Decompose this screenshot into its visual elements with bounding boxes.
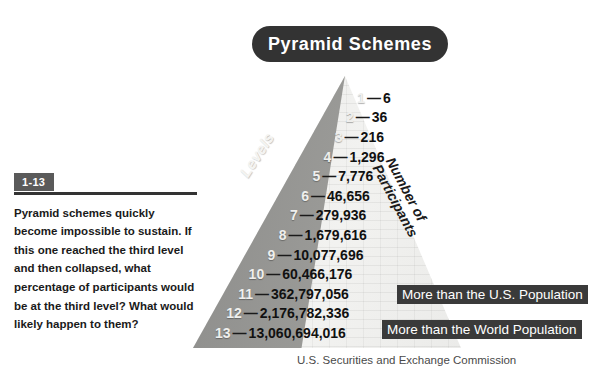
- title-pill: Pyramid Schemes: [252, 26, 448, 62]
- level-row: 5—7,776: [196, 166, 436, 186]
- level-row: 9—10,077,696: [196, 245, 436, 265]
- level-number: 11: [234, 286, 253, 302]
- callout-world-population: More than the World Population: [382, 320, 582, 339]
- level-number: 9: [256, 247, 275, 263]
- level-dash: —: [264, 266, 282, 282]
- level-number: 2: [335, 109, 354, 125]
- level-value: 36: [372, 109, 388, 125]
- infographic-canvas: Pyramid Schemes Levels Number of Partici…: [0, 0, 616, 389]
- level-dash: —: [365, 90, 383, 106]
- level-row: 8—1,679,616: [196, 225, 436, 245]
- level-number: 12: [223, 305, 242, 321]
- level-dash: —: [331, 149, 349, 165]
- level-value: 10,077,696: [293, 247, 363, 263]
- level-number: 4: [312, 149, 331, 165]
- level-value: 1,679,616: [305, 227, 367, 243]
- level-dash: —: [343, 129, 361, 145]
- level-value: 46,656: [327, 188, 370, 204]
- level-dash: —: [354, 109, 372, 125]
- level-row: 2—36: [196, 108, 436, 128]
- level-dash: —: [253, 286, 271, 302]
- level-number: 3: [324, 129, 343, 145]
- level-number: 13: [212, 325, 231, 341]
- level-dash: —: [231, 325, 249, 341]
- level-value: 216: [361, 129, 384, 145]
- level-dash: —: [242, 305, 260, 321]
- level-number: 8: [268, 227, 287, 243]
- callout-us-population: More than the U.S. Population: [397, 285, 588, 304]
- level-value: 60,466,176: [282, 266, 352, 282]
- level-row: 6—46,656: [196, 186, 436, 206]
- level-dash: —: [287, 227, 305, 243]
- level-number: 5: [301, 168, 320, 184]
- level-dash: —: [275, 247, 293, 263]
- level-value: 13,060,694,016: [249, 325, 346, 341]
- question-number-badge: 1-13: [14, 173, 54, 191]
- question-text: Pyramid schemes quickly become impossibl…: [14, 204, 197, 334]
- level-row: 4—1,296: [196, 147, 436, 167]
- level-number: 1: [346, 90, 365, 106]
- source-credit: U.S. Securities and Exchange Commission: [297, 354, 516, 366]
- level-value: 279,936: [316, 207, 367, 223]
- level-dash: —: [309, 188, 327, 204]
- level-number: 7: [279, 207, 298, 223]
- question-panel: 1-13 Pyramid schemes quickly become impo…: [14, 172, 197, 334]
- level-row: 3—216: [196, 127, 436, 147]
- level-row: 10—60,466,176: [196, 264, 436, 284]
- level-dash: —: [298, 207, 316, 223]
- question-lead: Pyramid schemes quickly become impossibl…: [14, 207, 181, 238]
- level-value: 7,776: [338, 168, 373, 184]
- question-divider: [14, 192, 197, 195]
- level-number: 6: [290, 188, 309, 204]
- page-title: Pyramid Schemes: [268, 34, 432, 55]
- question-rest: If this one reached the third level and …: [14, 225, 194, 330]
- level-row: 7—279,936: [196, 206, 436, 226]
- level-value: 1,296: [349, 149, 384, 165]
- levels-list: 1—62—363—2164—1,2965—7,7766—46,6567—279,…: [196, 88, 436, 343]
- level-number: 10: [245, 266, 264, 282]
- level-value: 6: [383, 90, 391, 106]
- level-row: 1—6: [196, 88, 436, 108]
- level-dash: —: [320, 168, 338, 184]
- level-value: 2,176,782,336: [260, 305, 350, 321]
- level-value: 362,797,056: [271, 286, 349, 302]
